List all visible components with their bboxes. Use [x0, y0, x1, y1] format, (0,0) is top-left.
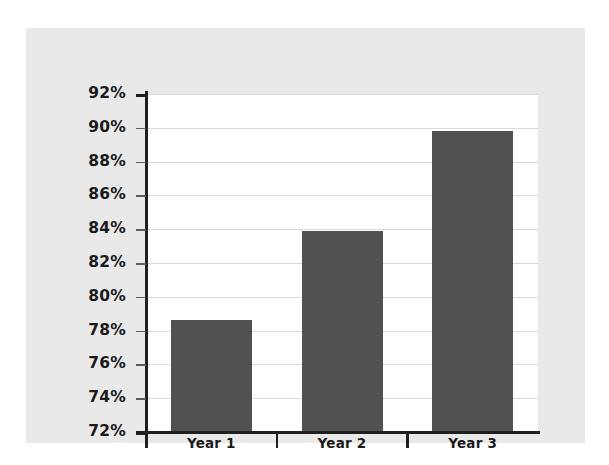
y-axis-label: 82% [54, 255, 126, 271]
y-axis-tick [136, 128, 146, 130]
y-axis-tick [136, 94, 146, 97]
bar-chart-figure: 92%90%88%86%84%82%80%78%76%74%72%Year 1Y… [0, 0, 609, 465]
y-axis-tick [136, 162, 146, 164]
y-axis-label: 84% [54, 221, 126, 237]
x-axis-label: Year 2 [277, 437, 408, 451]
y-axis-label: 86% [54, 187, 126, 203]
y-axis-label: 90% [54, 120, 126, 136]
y-axis-label: 76% [54, 356, 126, 372]
y-axis-label: 74% [54, 390, 126, 406]
y-axis-label: 88% [54, 154, 126, 170]
y-axis-tick [136, 331, 146, 333]
y-axis-tick [136, 398, 146, 400]
y-axis-label: 72% [54, 424, 126, 440]
y-axis-tick [136, 263, 146, 265]
y-axis-tick [136, 195, 146, 197]
y-axis-tick [136, 229, 146, 231]
x-axis-line [136, 431, 540, 434]
x-axis-label: Year 3 [407, 437, 538, 451]
bar [171, 320, 252, 432]
bar [432, 131, 513, 432]
chart-panel: 92%90%88%86%84%82%80%78%76%74%72%Year 1Y… [26, 28, 585, 443]
x-axis-label: Year 1 [146, 437, 277, 451]
y-axis-tick [136, 297, 146, 299]
y-axis-label: 78% [54, 323, 126, 339]
bar [302, 231, 383, 432]
gridline [146, 128, 538, 129]
gridline [146, 94, 538, 95]
plot-area [146, 94, 538, 432]
y-axis-label: 80% [54, 289, 126, 305]
y-axis-tick [136, 364, 146, 366]
y-axis-label: 92% [54, 86, 126, 102]
